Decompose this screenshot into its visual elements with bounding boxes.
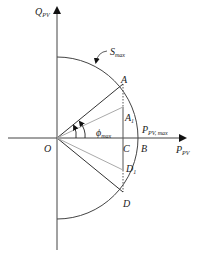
pq-capability-diagram: QPV PPV Smax O A A1 C B PPV, max D1 D ϕm… bbox=[0, 0, 197, 258]
point-label-B: B bbox=[141, 143, 147, 154]
line-O-A bbox=[57, 84, 123, 138]
point-label-A: A bbox=[120, 74, 128, 85]
p-axis-label: PPV bbox=[175, 144, 191, 156]
point-label-O: O bbox=[44, 143, 51, 154]
smax-pointer bbox=[96, 51, 107, 62]
angle-arc-inner bbox=[74, 126, 76, 138]
point-label-A1: A1 bbox=[124, 112, 134, 124]
point-label-C: C bbox=[123, 143, 130, 154]
pmax-label: PPV, max bbox=[141, 124, 168, 136]
point-label-D1: D1 bbox=[125, 163, 136, 175]
q-axis-label: QPV bbox=[35, 6, 51, 18]
smax-label: Smax bbox=[110, 46, 125, 58]
point-label-D: D bbox=[122, 198, 131, 209]
line-O-A1 bbox=[57, 107, 123, 138]
angle-arc-outer bbox=[80, 122, 85, 138]
angle-label-phi-max: ϕmax bbox=[96, 127, 112, 139]
